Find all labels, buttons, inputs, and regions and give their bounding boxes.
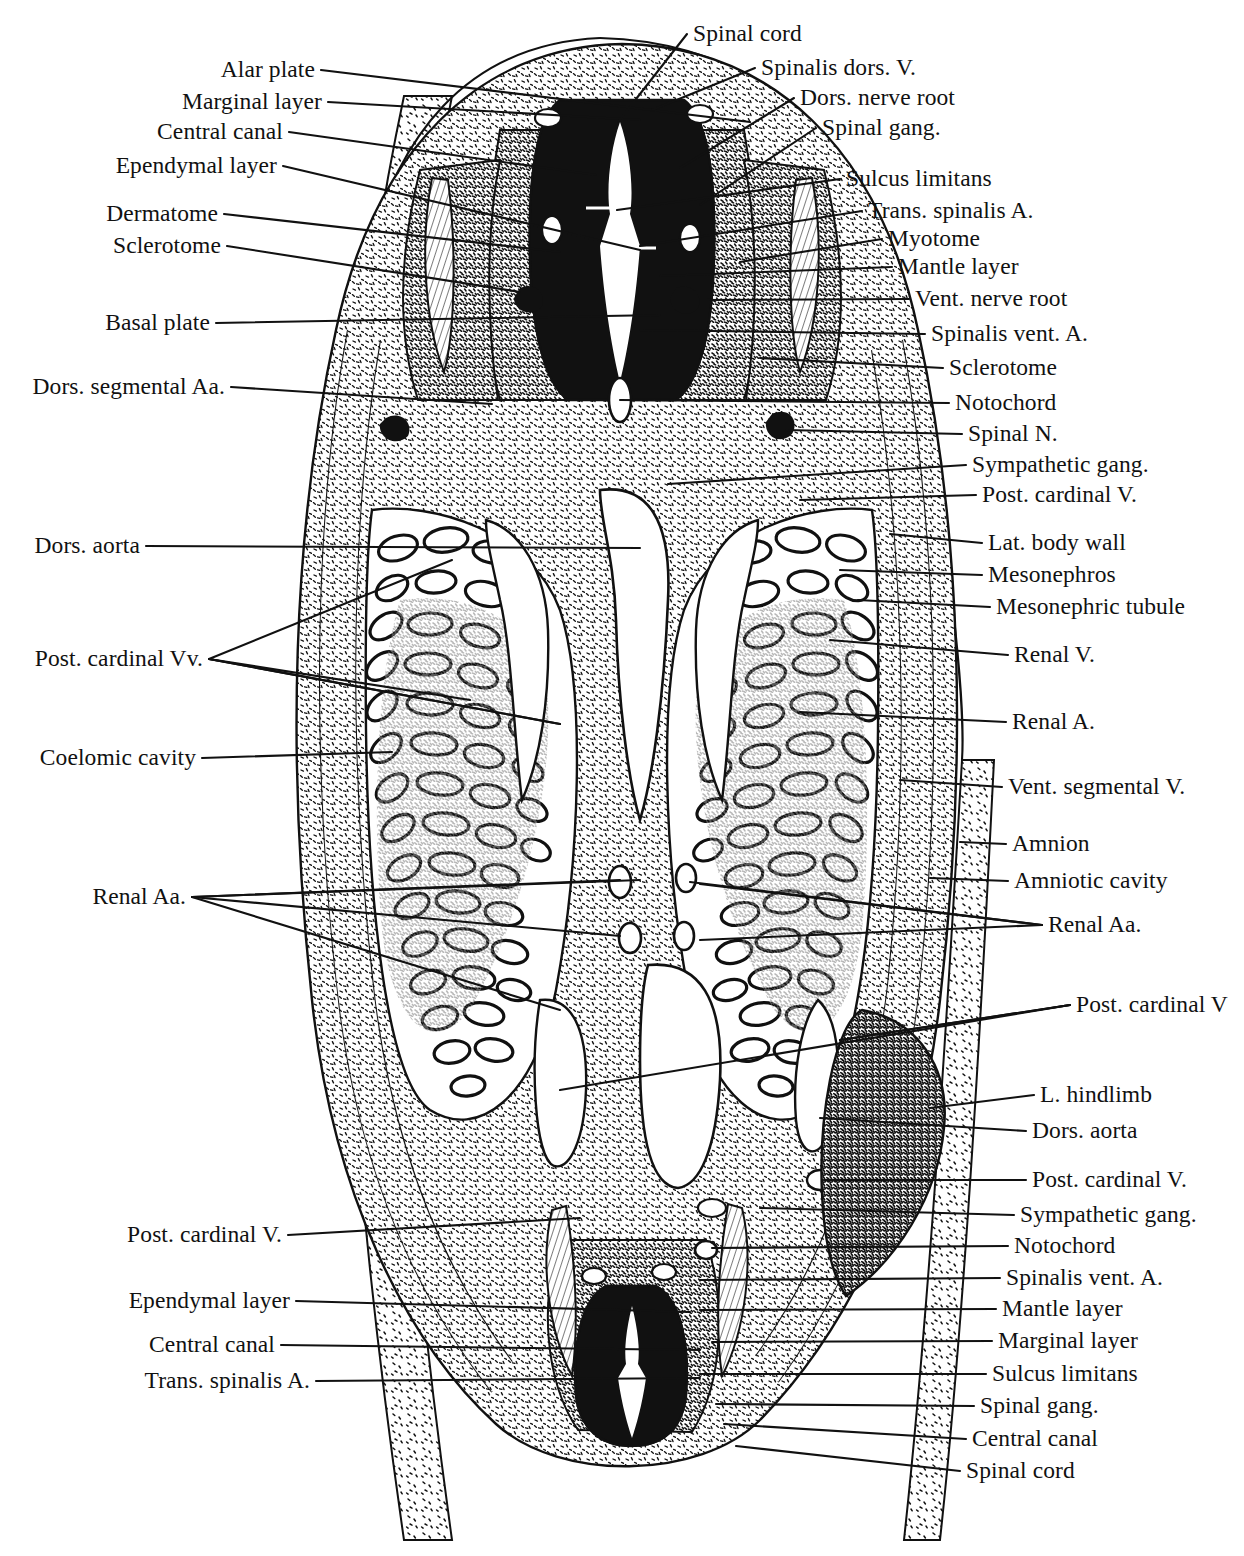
label-sulcus-limitans: Sulcus limitans (846, 167, 992, 191)
label-spinal-cord: Spinal cord (966, 1459, 1075, 1483)
label-post-cardinal-v: Post. cardinal V. (127, 1223, 282, 1247)
label-sympathetic-gang: Sympathetic gang. (1020, 1203, 1197, 1227)
label-vent-nerve-root: Vent. nerve root (915, 287, 1067, 311)
label-notochord: Notochord (1014, 1234, 1115, 1258)
label-vent-segmental-v: Vent. segmental V. (1008, 775, 1185, 799)
label-central-canal: Central canal (157, 120, 283, 144)
label-trans-spinalis-a: Trans. spinalis A. (868, 199, 1033, 223)
label-ependymal-layer: Ependymal layer (129, 1289, 290, 1313)
label-renal-aa: Renal Aa. (92, 885, 186, 909)
label-dors-segmental-aa: Dors. segmental Aa. (33, 375, 225, 399)
label-dermatome: Dermatome (106, 202, 218, 226)
label-central-canal: Central canal (972, 1427, 1098, 1451)
label-dors-aorta: Dors. aorta (34, 534, 140, 558)
label-myotome: Myotome (888, 227, 980, 251)
dorsal-aorta-caudal (640, 965, 720, 1188)
label-sclerotome: Sclerotome (949, 356, 1057, 380)
label-central-canal: Central canal (149, 1333, 275, 1357)
label-spinalis-vent-a: Spinalis vent. A. (931, 322, 1088, 346)
label-sympathetic-gang: Sympathetic gang. (972, 453, 1149, 477)
label-trans-spinalis-a: Trans. spinalis A. (145, 1369, 310, 1393)
label-amniotic-cavity: Amniotic cavity (1014, 869, 1168, 893)
label-renal-a: Renal A. (1012, 710, 1095, 734)
label-amnion: Amnion (1012, 832, 1090, 856)
label-spinalis-dors-v: Spinalis dors. V. (761, 56, 916, 80)
label-mantle-layer: Mantle layer (898, 255, 1019, 279)
label-post-cardinal-vv: Post. cardinal Vv. (35, 647, 203, 671)
label-l-hindlimb: L. hindlimb (1040, 1083, 1152, 1107)
label-spinal-cord: Spinal cord (693, 22, 802, 46)
label-post-cardinal-v: Post. cardinal V. (982, 483, 1137, 507)
label-dors-aorta: Dors. aorta (1032, 1119, 1138, 1143)
label-sclerotome: Sclerotome (113, 234, 221, 258)
label-ependymal-layer: Ependymal layer (116, 154, 277, 178)
label-post-cardinal-v: Post. cardinal V (1076, 993, 1228, 1017)
label-marginal-layer: Marginal layer (182, 90, 322, 114)
label-sulcus-limitans: Sulcus limitans (992, 1362, 1138, 1386)
label-spinal-gang: Spinal gang. (822, 116, 941, 140)
label-dors-nerve-root: Dors. nerve root (800, 86, 955, 110)
label-spinalis-vent-a: Spinalis vent. A. (1006, 1266, 1163, 1290)
label-post-cardinal-v: Post. cardinal V. (1032, 1168, 1187, 1192)
label-renal-v: Renal V. (1014, 643, 1095, 667)
leader-vent-nerve-root (700, 299, 909, 300)
label-alar-plate: Alar plate (221, 58, 315, 82)
label-marginal-layer: Marginal layer (998, 1329, 1138, 1353)
leader-marginal-layer (712, 1341, 992, 1342)
leader-mantle-layer (700, 1309, 996, 1310)
label-basal-plate: Basal plate (105, 311, 210, 335)
label-spinal-gang: Spinal gang. (980, 1394, 1099, 1418)
anatomical-figure-plate: Alar plateMarginal layerCentral canalEpe… (0, 0, 1244, 1556)
label-spinal-n: Spinal N. (968, 422, 1058, 446)
label-lat-body-wall: Lat. body wall (988, 531, 1126, 555)
label-notochord: Notochord (955, 391, 1056, 415)
notochord-caudal (695, 1241, 717, 1259)
label-mesonephros: Mesonephros (988, 563, 1116, 587)
label-mesonephric-tubule: Mesonephric tubule (996, 595, 1185, 619)
label-renal-aa: Renal Aa. (1048, 913, 1142, 937)
label-mantle-layer: Mantle layer (1002, 1297, 1123, 1321)
label-coelomic-cavity: Coelomic cavity (40, 746, 196, 770)
